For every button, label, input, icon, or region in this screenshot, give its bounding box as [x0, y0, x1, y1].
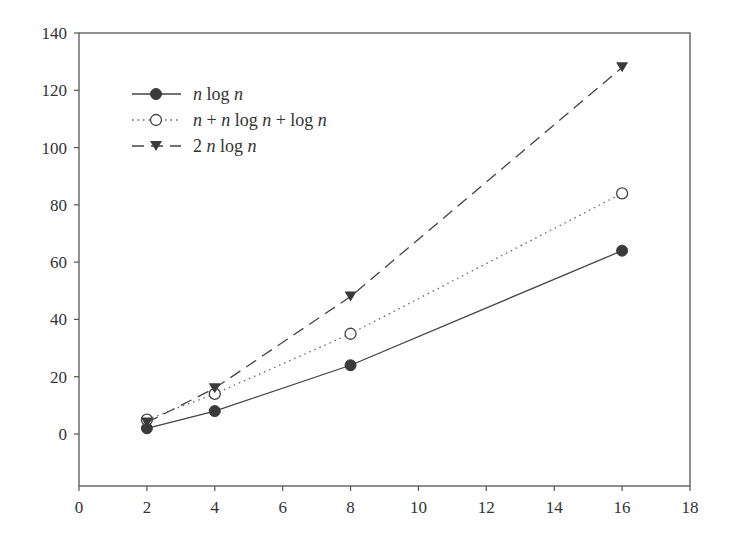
legend-item-3: 2 n log n	[132, 136, 257, 156]
x-tick-label: 6	[278, 498, 287, 517]
plot-frame	[79, 33, 690, 486]
legend: n log nn + n log n + log n2 n log n	[132, 84, 327, 156]
y-tick-label: 100	[42, 139, 68, 158]
x-tick-label: 12	[478, 498, 495, 517]
x-tick-label: 10	[410, 498, 427, 517]
y-tick-label: 140	[42, 24, 68, 43]
legend-label: n + n log n + log n	[193, 110, 327, 130]
x-tick-label: 4	[211, 498, 220, 517]
x-tick-label: 14	[546, 498, 564, 517]
legend-marker	[151, 89, 162, 100]
y-tick-label: 40	[50, 310, 67, 329]
y-tick-label: 80	[50, 196, 67, 215]
data-point-marker	[345, 328, 356, 339]
data-point-marker	[617, 245, 628, 256]
series-1	[141, 245, 627, 434]
data-point-marker	[345, 360, 356, 371]
legend-label: n log n	[193, 84, 243, 104]
x-tick-label: 16	[614, 498, 631, 517]
data-point-marker	[209, 406, 220, 417]
y-tick-label: 120	[42, 81, 68, 100]
x-tick-label: 8	[346, 498, 355, 517]
series-line	[147, 251, 622, 429]
x-tick-label: 0	[75, 498, 84, 517]
x-tick-label: 18	[682, 498, 699, 517]
y-tick-label: 0	[59, 425, 68, 444]
x-tick-label: 2	[143, 498, 152, 517]
line-chart: 024681012141618020406080100120140 n log …	[0, 0, 732, 549]
legend-label: 2 n log n	[193, 136, 257, 156]
data-point-marker	[617, 188, 628, 199]
y-tick-label: 20	[50, 368, 67, 387]
axes: 024681012141618020406080100120140	[42, 24, 699, 517]
legend-marker	[151, 115, 162, 126]
y-tick-label: 60	[50, 253, 67, 272]
legend-item-1: n log n	[132, 84, 243, 104]
legend-item-2: n + n log n + log n	[132, 110, 327, 130]
